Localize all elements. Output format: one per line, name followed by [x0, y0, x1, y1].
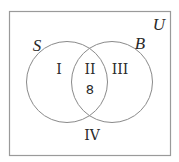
region-iv-label: IV [84, 127, 101, 143]
region-i-label: I [56, 61, 62, 77]
region-ii-label: II [84, 61, 95, 77]
venn-diagram: U S B I II 8 III IV [0, 0, 179, 162]
set-b-label: B [135, 34, 146, 53]
set-b-circle [72, 42, 153, 123]
region-iii-label: III [112, 61, 129, 77]
set-s-label: S [33, 36, 42, 55]
region-ii-value: 8 [86, 82, 94, 97]
universe-label: U [153, 15, 167, 34]
